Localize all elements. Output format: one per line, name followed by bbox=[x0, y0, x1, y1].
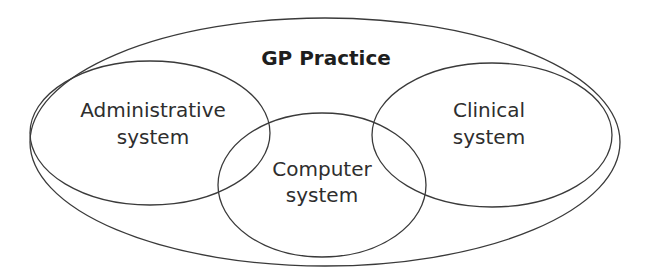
gp-practice-title: GP Practice bbox=[261, 46, 391, 70]
venn-diagram: GP Practice Administrative system Clinic… bbox=[0, 0, 645, 279]
administrative-system-label-line1: Administrative bbox=[80, 98, 226, 122]
administrative-system-label-line2: system bbox=[117, 125, 189, 149]
clinical-system-label-line2: system bbox=[453, 125, 525, 149]
computer-system-label-line1: Computer bbox=[272, 157, 372, 181]
computer-system-label-line2: system bbox=[286, 183, 358, 207]
clinical-system-label-line1: Clinical bbox=[453, 98, 525, 122]
